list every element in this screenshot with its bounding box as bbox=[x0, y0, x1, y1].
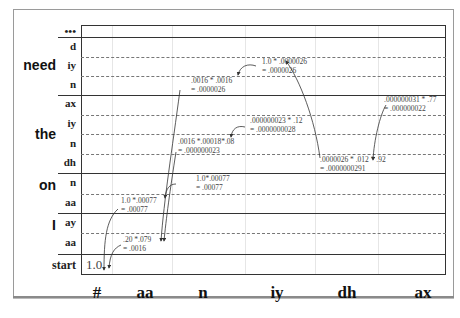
arrow-the-iy-to-the-n bbox=[231, 126, 245, 137]
arrow-need-n-to-i-aa bbox=[161, 90, 180, 241]
arrow-the-dh-to-need-iy bbox=[286, 61, 320, 158]
arrow-on-aa-to-start bbox=[104, 209, 118, 270]
arrow-i-aa-to-start bbox=[109, 245, 121, 268]
arrow-need-iy-to-need-n bbox=[238, 65, 256, 75]
arrow-the-ax-to-the-dh bbox=[373, 105, 386, 160]
backpointer-arrows bbox=[0, 0, 460, 318]
